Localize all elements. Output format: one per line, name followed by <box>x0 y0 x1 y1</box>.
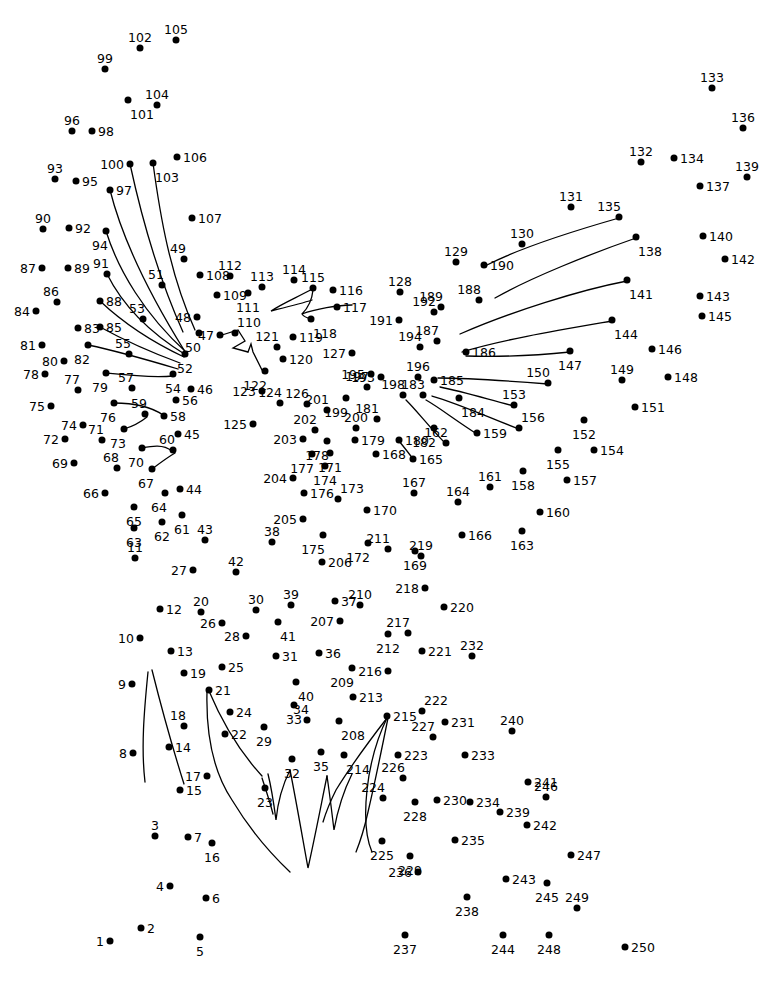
puzzle-dot[interactable] <box>290 334 297 341</box>
puzzle-dot[interactable] <box>262 785 269 792</box>
puzzle-dot[interactable] <box>622 944 629 951</box>
puzzle-dot[interactable] <box>524 822 531 829</box>
puzzle-dot[interactable] <box>197 272 204 279</box>
puzzle-dot[interactable] <box>638 159 645 166</box>
puzzle-dot[interactable] <box>304 717 311 724</box>
puzzle-dot[interactable] <box>455 499 462 506</box>
puzzle-dot[interactable] <box>175 431 182 438</box>
puzzle-dot[interactable] <box>467 799 474 806</box>
puzzle-dot[interactable] <box>182 351 189 358</box>
puzzle-dot[interactable] <box>127 161 134 168</box>
puzzle-dot[interactable] <box>107 187 114 194</box>
puzzle-dot[interactable] <box>476 297 483 304</box>
puzzle-dot[interactable] <box>609 317 616 324</box>
puzzle-dot[interactable] <box>431 309 438 316</box>
puzzle-dot[interactable] <box>511 402 518 409</box>
puzzle-dot[interactable] <box>162 490 169 497</box>
puzzle-dot[interactable] <box>204 773 211 780</box>
puzzle-dot[interactable] <box>310 285 317 292</box>
puzzle-dot[interactable] <box>62 436 69 443</box>
puzzle-dot[interactable] <box>537 509 544 516</box>
puzzle-dot[interactable] <box>66 225 73 232</box>
puzzle-dot[interactable] <box>396 317 403 324</box>
puzzle-dot[interactable] <box>250 421 257 428</box>
puzzle-dot[interactable] <box>697 293 704 300</box>
puzzle-dot[interactable] <box>273 653 280 660</box>
puzzle-dot[interactable] <box>334 304 341 311</box>
puzzle-dot[interactable] <box>290 475 297 482</box>
puzzle-dot[interactable] <box>568 852 575 859</box>
puzzle-dot[interactable] <box>441 604 448 611</box>
puzzle-dot[interactable] <box>619 377 626 384</box>
puzzle-dot[interactable] <box>129 681 136 688</box>
puzzle-dot[interactable] <box>227 273 234 280</box>
puzzle-dot[interactable] <box>456 395 463 402</box>
puzzle-dot[interactable] <box>243 633 250 640</box>
puzzle-dot[interactable] <box>219 620 226 627</box>
puzzle-dot[interactable] <box>396 437 403 444</box>
puzzle-dot[interactable] <box>402 932 409 939</box>
puzzle-dot[interactable] <box>405 630 412 637</box>
puzzle-dot[interactable] <box>181 670 188 677</box>
puzzle-dot[interactable] <box>181 256 188 263</box>
puzzle-dot[interactable] <box>54 299 61 306</box>
puzzle-dot[interactable] <box>170 371 177 378</box>
puzzle-dot[interactable] <box>159 519 166 526</box>
puzzle-dot[interactable] <box>203 895 210 902</box>
puzzle-dot[interactable] <box>385 631 392 638</box>
puzzle-dot[interactable] <box>442 719 449 726</box>
puzzle-dot[interactable] <box>206 687 213 694</box>
puzzle-dot[interactable] <box>319 559 326 566</box>
puzzle-dot[interactable] <box>300 436 307 443</box>
puzzle-dot[interactable] <box>65 265 72 272</box>
puzzle-dot[interactable] <box>269 539 276 546</box>
puzzle-dot[interactable] <box>111 400 118 407</box>
puzzle-dot[interactable] <box>103 228 110 235</box>
puzzle-dot[interactable] <box>173 37 180 44</box>
puzzle-dot[interactable] <box>293 679 300 686</box>
puzzle-dot[interactable] <box>322 463 329 470</box>
puzzle-dot[interactable] <box>364 507 371 514</box>
puzzle-dot[interactable] <box>137 635 144 642</box>
puzzle-dot[interactable] <box>217 332 224 339</box>
puzzle-dot[interactable] <box>121 426 128 433</box>
puzzle-dot[interactable] <box>89 128 96 135</box>
puzzle-dot[interactable] <box>430 734 437 741</box>
puzzle-dot[interactable] <box>353 425 360 432</box>
puzzle-dot[interactable] <box>591 447 598 454</box>
puzzle-dot[interactable] <box>520 468 527 475</box>
puzzle-dot[interactable] <box>546 932 553 939</box>
puzzle-dot[interactable] <box>581 417 588 424</box>
puzzle-dot[interactable] <box>335 496 342 503</box>
puzzle-dot[interactable] <box>73 178 80 185</box>
puzzle-dot[interactable] <box>142 411 149 418</box>
puzzle-dot[interactable] <box>177 787 184 794</box>
puzzle-dot[interactable] <box>350 694 357 701</box>
puzzle-dot[interactable] <box>459 532 466 539</box>
puzzle-dot[interactable] <box>343 395 350 402</box>
puzzle-dot[interactable] <box>245 290 252 297</box>
puzzle-dot[interactable] <box>131 504 138 511</box>
puzzle-dot[interactable] <box>699 313 706 320</box>
puzzle-dot[interactable] <box>99 437 106 444</box>
puzzle-dot[interactable] <box>42 371 49 378</box>
puzzle-dot[interactable] <box>280 356 287 363</box>
puzzle-dot[interactable] <box>452 837 459 844</box>
puzzle-dot[interactable] <box>114 465 121 472</box>
puzzle-dot[interactable] <box>288 602 295 609</box>
puzzle-dot[interactable] <box>395 752 402 759</box>
puzzle-dot[interactable] <box>649 346 656 353</box>
puzzle-dot[interactable] <box>168 648 175 655</box>
puzzle-dot[interactable] <box>697 183 704 190</box>
puzzle-dot[interactable] <box>722 256 729 263</box>
puzzle-dot[interactable] <box>373 451 380 458</box>
puzzle-dot[interactable] <box>274 344 281 351</box>
puzzle-dot[interactable] <box>385 668 392 675</box>
puzzle-dot[interactable] <box>173 397 180 404</box>
puzzle-dot[interactable] <box>324 407 331 414</box>
puzzle-dot[interactable] <box>275 619 282 626</box>
puzzle-dot[interactable] <box>464 894 471 901</box>
puzzle-dot[interactable] <box>219 664 226 671</box>
puzzle-dot[interactable] <box>431 377 438 384</box>
puzzle-dot[interactable] <box>330 287 337 294</box>
